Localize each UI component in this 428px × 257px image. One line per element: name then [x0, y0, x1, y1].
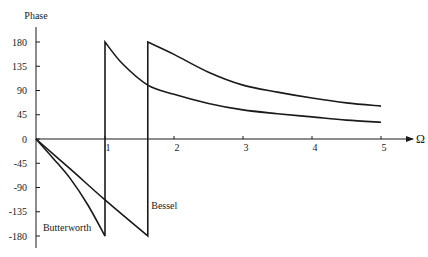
x-axis: Ω 12345 [36, 132, 425, 153]
x-tick-label: 2 [175, 142, 180, 153]
y-tick-label: -135 [9, 206, 27, 217]
y-axis: Phase 18013590450-45-90-135-180 [9, 10, 49, 248]
x-tick-label: 4 [313, 142, 318, 153]
x-tick-label: 5 [382, 142, 387, 153]
x-tick-label: 3 [244, 142, 249, 153]
y-tick-label: 90 [17, 85, 27, 96]
series-label: Bessel [151, 200, 177, 211]
phase-response-chart: Phase 18013590450-45-90-135-180 Ω 12345 … [0, 0, 428, 257]
y-tick-label: -180 [9, 231, 27, 242]
y-tick-label: -90 [14, 182, 27, 193]
series-label: Butterworth [43, 222, 91, 233]
y-tick-label: 45 [17, 109, 27, 120]
y-tick-label: 0 [22, 134, 27, 145]
x-tick-label: 1 [106, 142, 111, 153]
y-tick-label: -45 [14, 158, 27, 169]
y-tick-label: 180 [12, 37, 27, 48]
y-ticks: 18013590450-45-90-135-180 [9, 37, 40, 242]
y-tick-label: 135 [12, 61, 27, 72]
x-axis-title: Ω [416, 132, 425, 146]
y-axis-title: Phase [24, 10, 48, 21]
